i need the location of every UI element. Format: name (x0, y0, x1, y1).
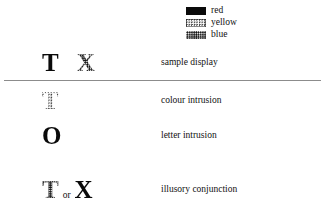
color-swatch-icon-red (186, 7, 206, 15)
color-swatch-icon-yellow (186, 19, 206, 27)
legend-label-blue: blue (211, 29, 227, 40)
legend-label-yellow: yellow (211, 17, 237, 28)
stimulus-letter: T (42, 50, 59, 75)
color-swatch-icon-blue (186, 31, 206, 39)
legend: red yellow blue (186, 5, 237, 40)
stimulus-letter: X (75, 177, 93, 202)
stimuli-colour-intrusion: T (0, 88, 155, 113)
row-label-letter-intrusion: letter intrusion (155, 130, 325, 140)
legend-item-red: red (186, 5, 237, 16)
illusory-conjunction-figure: red yellow blue T X sample display T col… (0, 0, 325, 215)
row-sample-display: T X sample display (0, 47, 325, 77)
stimuli-illusory-conjunction: T or X (0, 177, 155, 202)
horizontal-rule (4, 80, 321, 81)
stimulus-letter: X (77, 50, 95, 75)
row-label-sample-display: sample display (155, 57, 325, 67)
row-label-colour-intrusion: colour intrusion (155, 95, 325, 105)
stimuli-sample-display: T X (0, 50, 155, 75)
legend-item-yellow: yellow (186, 17, 237, 28)
legend-label-red: red (211, 5, 223, 16)
row-illusory-conjunction: T or X illusory conjunction (0, 174, 325, 204)
row-letter-intrusion: O letter intrusion (0, 120, 325, 150)
stimulus-letter: T (42, 177, 59, 202)
row-colour-intrusion: T colour intrusion (0, 85, 325, 115)
stimulus-connector: or (63, 190, 71, 200)
stimulus-letter: T (42, 88, 59, 113)
legend-item-blue: blue (186, 29, 237, 40)
stimulus-letter: O (42, 123, 61, 148)
stimuli-letter-intrusion: O (0, 123, 155, 148)
row-label-illusory-conjunction: illusory conjunction (155, 184, 325, 194)
